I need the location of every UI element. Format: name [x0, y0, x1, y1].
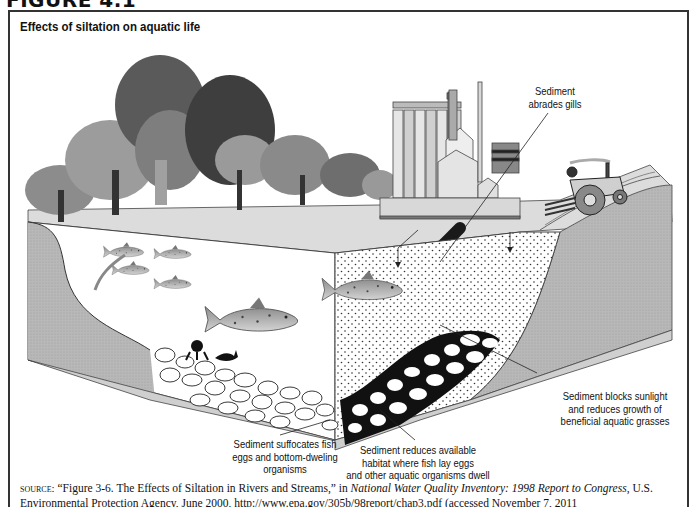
label-abrades-gills: Sediment abrades gills	[524, 85, 587, 110]
source-title: National Water Quality Inventory: 1998 R…	[351, 482, 627, 494]
label-suffocates-eggs: Sediment suffocates fish eggs and bottom…	[222, 438, 348, 476]
label-blocks-sunlight: Sediment blocks sunlight and reduces gro…	[548, 390, 683, 428]
siltation-diagram	[0, 0, 697, 507]
trees-icon	[25, 55, 398, 222]
factory-icon	[380, 82, 520, 219]
source-citation: source: “Figure 3-6. The Effects of Silt…	[20, 481, 680, 507]
label-reduces-habitat: Sediment reduces available habitat where…	[346, 444, 490, 482]
source-prefix: source:	[20, 482, 55, 494]
